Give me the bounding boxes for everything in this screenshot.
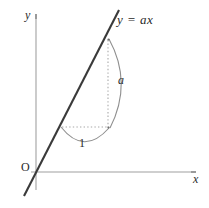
vertex-dot-top (107, 38, 109, 40)
y-axis-label: y (25, 9, 30, 21)
function-equation-label: y = ax (117, 13, 153, 26)
run-brace-arc (61, 127, 109, 142)
x-axis-label: x (193, 173, 198, 185)
math-figure-linear-function: y = ax y x O a 1 (0, 0, 209, 208)
vertex-dot-corner (107, 126, 109, 128)
figure-canvas (0, 0, 209, 208)
function-line (24, 10, 119, 196)
origin-label: O (21, 161, 30, 173)
rise-label: a (118, 74, 124, 86)
run-label: 1 (79, 137, 85, 149)
